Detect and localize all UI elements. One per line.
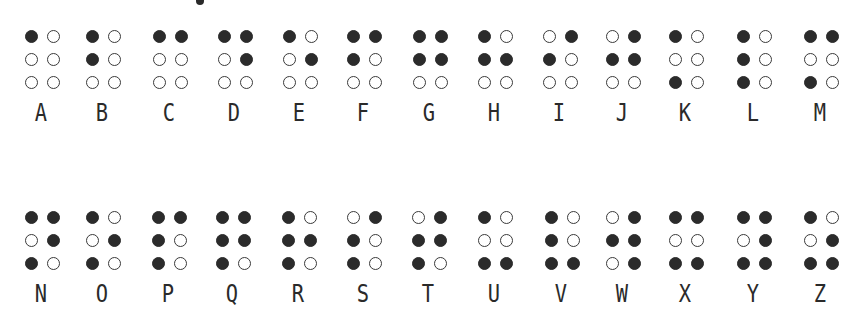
filled-dot-icon xyxy=(804,76,817,89)
filled-dot-icon xyxy=(369,30,382,43)
empty-dot-icon xyxy=(565,53,578,66)
empty-dot-icon xyxy=(737,234,750,247)
braille-cell-y: Y xyxy=(737,211,777,321)
dot-grid xyxy=(86,30,126,90)
filled-dot-icon xyxy=(737,211,750,224)
dot-grid xyxy=(737,211,777,271)
filled-dot-icon xyxy=(435,30,448,43)
filled-dot-icon xyxy=(347,53,360,66)
filled-dot-icon xyxy=(759,234,772,247)
dot-grid xyxy=(606,30,646,90)
filled-dot-icon xyxy=(500,257,513,270)
empty-dot-icon xyxy=(565,76,578,89)
braille-cell-w: W xyxy=(606,211,646,321)
empty-dot-icon xyxy=(108,211,121,224)
empty-dot-icon xyxy=(669,53,682,66)
filled-dot-icon xyxy=(175,30,188,43)
filled-dot-icon xyxy=(47,234,60,247)
empty-dot-icon xyxy=(628,76,641,89)
dot-grid xyxy=(804,211,844,271)
empty-dot-icon xyxy=(826,76,839,89)
filled-dot-icon xyxy=(216,211,229,224)
filled-dot-icon xyxy=(238,211,251,224)
letter-label: P xyxy=(146,282,190,306)
empty-dot-icon xyxy=(759,76,772,89)
filled-dot-icon xyxy=(669,211,682,224)
filled-dot-icon xyxy=(500,53,513,66)
letter-label: E xyxy=(277,101,321,125)
empty-dot-icon xyxy=(108,30,121,43)
letter-label: J xyxy=(600,101,644,125)
filled-dot-icon xyxy=(435,53,448,66)
filled-dot-icon xyxy=(669,30,682,43)
empty-dot-icon xyxy=(567,211,580,224)
filled-dot-icon xyxy=(478,257,491,270)
filled-dot-icon xyxy=(737,53,750,66)
filled-dot-icon xyxy=(347,234,360,247)
filled-dot-icon xyxy=(304,234,317,247)
braille-cell-v: V xyxy=(545,211,585,321)
empty-dot-icon xyxy=(606,30,619,43)
empty-dot-icon xyxy=(500,234,513,247)
filled-dot-icon xyxy=(174,211,187,224)
empty-dot-icon xyxy=(413,76,426,89)
empty-dot-icon xyxy=(804,53,817,66)
filled-dot-icon xyxy=(737,76,750,89)
dot-grid xyxy=(216,211,256,271)
dot-grid xyxy=(25,30,65,90)
empty-dot-icon xyxy=(434,257,447,270)
filled-dot-icon xyxy=(282,257,295,270)
filled-dot-icon xyxy=(543,53,556,66)
filled-dot-icon xyxy=(434,211,447,224)
filled-dot-icon xyxy=(86,211,99,224)
letter-label: A xyxy=(19,101,63,125)
dot-grid xyxy=(412,211,452,271)
braille-cell-t: T xyxy=(412,211,452,321)
empty-dot-icon xyxy=(304,257,317,270)
filled-dot-icon xyxy=(153,30,166,43)
letter-label: D xyxy=(212,101,256,125)
letter-label: W xyxy=(600,282,644,306)
braille-cell-z: Z xyxy=(804,211,844,321)
filled-dot-icon xyxy=(691,257,704,270)
filled-dot-icon xyxy=(628,53,641,66)
braille-cell-o: O xyxy=(86,211,126,321)
empty-dot-icon xyxy=(175,53,188,66)
empty-dot-icon xyxy=(826,53,839,66)
filled-dot-icon xyxy=(86,53,99,66)
empty-dot-icon xyxy=(478,76,491,89)
empty-dot-icon xyxy=(500,211,513,224)
braille-cell-r: R xyxy=(282,211,322,321)
dot-grid xyxy=(86,211,126,271)
dot-grid xyxy=(669,30,709,90)
filled-dot-icon xyxy=(152,211,165,224)
dot-grid xyxy=(152,211,192,271)
empty-dot-icon xyxy=(218,53,231,66)
letter-label: I xyxy=(537,101,581,125)
empty-dot-icon xyxy=(691,76,704,89)
letter-label: G xyxy=(407,101,451,125)
empty-dot-icon xyxy=(691,234,704,247)
filled-dot-icon xyxy=(412,257,425,270)
empty-dot-icon xyxy=(47,257,60,270)
empty-dot-icon xyxy=(238,257,251,270)
filled-dot-icon xyxy=(606,53,619,66)
filled-dot-icon xyxy=(25,211,38,224)
dot-grid xyxy=(347,211,387,271)
filled-dot-icon xyxy=(369,211,382,224)
letter-label: U xyxy=(472,282,516,306)
filled-dot-icon xyxy=(413,53,426,66)
filled-dot-icon xyxy=(759,257,772,270)
empty-dot-icon xyxy=(175,76,188,89)
empty-dot-icon xyxy=(108,53,121,66)
braille-cell-j: J xyxy=(606,30,646,140)
filled-dot-icon xyxy=(669,257,682,270)
empty-dot-icon xyxy=(804,234,817,247)
letter-label: S xyxy=(341,282,385,306)
empty-dot-icon xyxy=(543,76,556,89)
filled-dot-icon xyxy=(240,30,253,43)
empty-dot-icon xyxy=(240,76,253,89)
letter-label: Q xyxy=(210,282,254,306)
braille-cell-g: G xyxy=(413,30,453,140)
empty-dot-icon xyxy=(691,30,704,43)
